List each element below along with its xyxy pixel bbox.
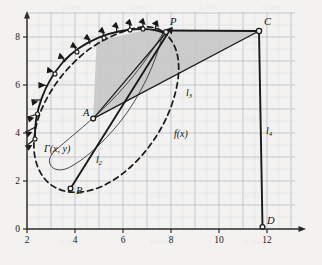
svg-text:0.1184: 0.1184 [262, 3, 280, 10]
y-tick-label: 4 [15, 128, 20, 138]
x-tick-label: 12 [262, 235, 272, 245]
point-C [256, 28, 261, 33]
point-A [91, 116, 96, 121]
label-D: D [266, 215, 275, 226]
label-C: C [264, 16, 272, 27]
label-gamma: Γ(x, y) [43, 143, 71, 155]
segment-p-c [165, 31, 259, 32]
svg-text:0.9823: 0.9823 [130, 3, 148, 10]
label-B: B [76, 185, 83, 196]
svg-text:0.0043: 0.0043 [62, 3, 80, 10]
y-tick-label: 6 [15, 80, 20, 90]
point-B [68, 186, 73, 191]
point-P [164, 30, 169, 35]
x-tick-label: 4 [73, 235, 78, 245]
label-A: A [82, 107, 90, 118]
svg-text:0.7592: 0.7592 [200, 3, 218, 10]
svg-text:0.3316: 0.3316 [245, 238, 264, 245]
y-tick-label: 2 [15, 176, 20, 186]
label-fx: f(x) [174, 128, 189, 140]
x-tick-label: 10 [214, 235, 224, 245]
x-tick-label: 2 [25, 235, 30, 245]
y-tick-label: 8 [15, 32, 20, 42]
x-tick-label: 6 [121, 235, 126, 245]
math-figure: 0.00430.9823 0.75920.1184 0.33120.1007 0… [0, 0, 322, 265]
y-tick-label: 0 [15, 224, 20, 234]
svg-text:0.0412: 0.0412 [150, 238, 168, 245]
x-tick-label: 8 [169, 235, 174, 245]
label-P: P [169, 16, 177, 27]
